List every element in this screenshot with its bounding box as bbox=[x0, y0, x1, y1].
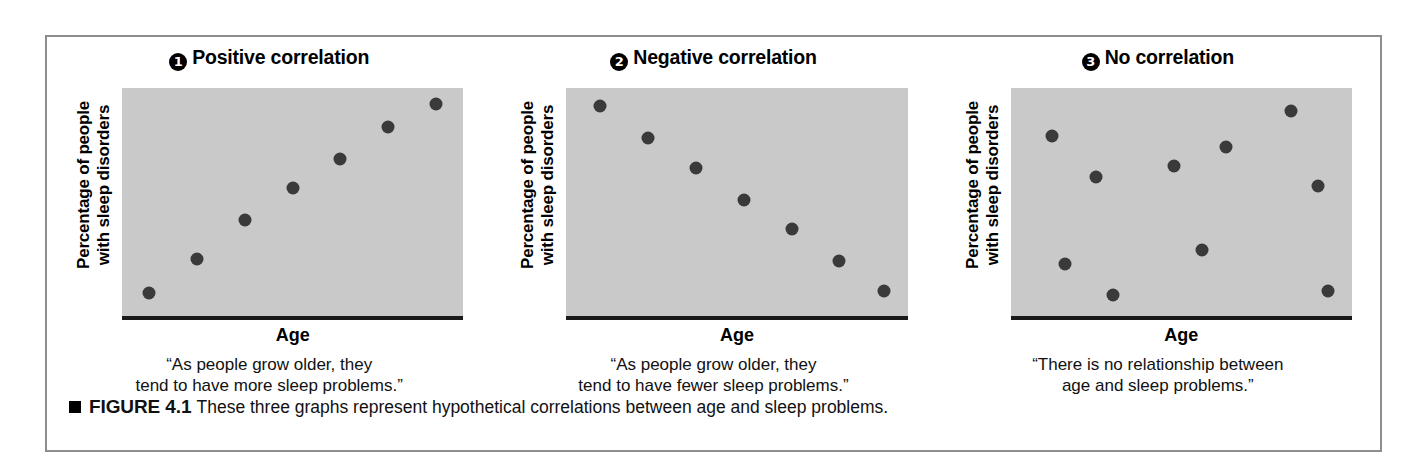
data-point bbox=[430, 97, 443, 110]
data-point bbox=[1219, 141, 1232, 154]
panel-title-text: No correlation bbox=[1105, 46, 1234, 68]
panel-number-badge: 2 bbox=[610, 53, 628, 71]
scatter-plot-area bbox=[566, 88, 907, 320]
panel-title: 1Positive correlation bbox=[47, 46, 491, 71]
y-axis-label-line1: Percentage of people bbox=[74, 101, 93, 269]
data-point bbox=[238, 214, 251, 227]
data-point bbox=[1284, 104, 1297, 117]
y-axis-label-line1: Percentage of people bbox=[518, 101, 537, 269]
data-point bbox=[1045, 129, 1058, 142]
data-point bbox=[1311, 180, 1324, 193]
data-point bbox=[877, 284, 890, 297]
panel-quote-line1: “There is no relationship between bbox=[946, 354, 1370, 375]
figure-caption: FIGURE 4.1These three graphs represent h… bbox=[69, 396, 1360, 418]
y-axis-label-line2: with sleep disorders bbox=[983, 105, 1002, 265]
data-point bbox=[191, 253, 204, 266]
data-point bbox=[1322, 284, 1335, 297]
data-point bbox=[143, 287, 156, 300]
y-axis-label-line2: with sleep disorders bbox=[538, 105, 557, 265]
y-axis-label-line2: with sleep disorders bbox=[94, 105, 113, 265]
caption-bar: FIGURE 4.1These three graphs represent h… bbox=[47, 376, 1380, 450]
data-point bbox=[1089, 170, 1102, 183]
panel-no-correlation: 3No correlation Percentage of people wit… bbox=[936, 37, 1380, 374]
figure-frame: 1Positive correlation Percentage of peop… bbox=[45, 35, 1382, 452]
data-point bbox=[785, 223, 798, 236]
data-point bbox=[690, 161, 703, 174]
data-point bbox=[1107, 289, 1120, 302]
data-point bbox=[833, 255, 846, 268]
figure-caption-text: These three graphs represent hypothetica… bbox=[196, 397, 888, 417]
x-axis-label: Age bbox=[122, 325, 463, 346]
panel-negative-correlation: 2Negative correlation Percentage of peop… bbox=[491, 37, 935, 374]
scatter-plot-area bbox=[122, 88, 463, 320]
data-point bbox=[1059, 257, 1072, 270]
data-point bbox=[1168, 159, 1181, 172]
data-point bbox=[382, 120, 395, 133]
y-axis-label: Percentage of people with sleep disorder… bbox=[74, 70, 114, 300]
panel-number-badge: 1 bbox=[169, 53, 187, 71]
scatter-plot-area bbox=[1011, 88, 1352, 320]
x-axis-label: Age bbox=[566, 325, 907, 346]
y-axis-label: Percentage of people with sleep disorder… bbox=[963, 70, 1003, 300]
panel-title-text: Negative correlation bbox=[633, 46, 816, 68]
square-bullet-icon bbox=[69, 401, 81, 413]
x-axis-label: Age bbox=[1011, 325, 1352, 346]
data-point bbox=[334, 152, 347, 165]
panel-title: 3No correlation bbox=[936, 46, 1380, 71]
data-point bbox=[286, 182, 299, 195]
data-point bbox=[642, 132, 655, 145]
panel-number-badge: 3 bbox=[1082, 53, 1100, 71]
figure-caption-label: FIGURE 4.1 bbox=[89, 396, 191, 417]
data-point bbox=[594, 100, 607, 113]
y-axis-label-line1: Percentage of people bbox=[963, 101, 982, 269]
panel-positive-correlation: 1Positive correlation Percentage of peop… bbox=[47, 37, 491, 374]
data-point bbox=[737, 193, 750, 206]
data-point bbox=[1195, 243, 1208, 256]
panel-title-text: Positive correlation bbox=[192, 46, 369, 68]
panel-quote-line1: “As people grow older, they bbox=[57, 354, 481, 375]
y-axis-label: Percentage of people with sleep disorder… bbox=[518, 70, 558, 300]
panel-quote-line1: “As people grow older, they bbox=[501, 354, 925, 375]
panel-title: 2Negative correlation bbox=[491, 46, 935, 71]
panels-row: 1Positive correlation Percentage of peop… bbox=[47, 37, 1380, 374]
